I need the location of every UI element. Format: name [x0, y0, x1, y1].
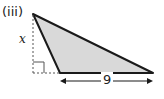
arrowhead-right-icon — [147, 78, 153, 84]
base-label: 9 — [101, 72, 113, 87]
right-angle-marker — [33, 62, 44, 73]
part-label: (iii) — [2, 4, 23, 19]
height-label: x — [19, 32, 26, 46]
triangle-diagram — [0, 0, 164, 99]
obtuse-triangle — [33, 14, 153, 73]
arrowhead-left-icon — [60, 78, 66, 84]
